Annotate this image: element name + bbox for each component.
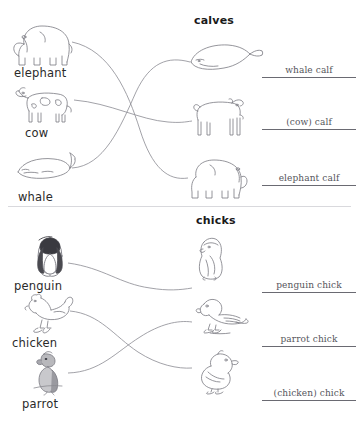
answer-rule — [262, 400, 356, 401]
answer-text-parrot-chick: parrot chick — [262, 334, 356, 344]
label-cow: cow — [25, 126, 48, 140]
whale-calf-icon — [186, 38, 264, 76]
label-elephant: elephant — [14, 66, 66, 80]
section-divider — [8, 206, 351, 207]
penguin-icon — [30, 230, 70, 278]
connector-whale-to-whale-calf — [72, 60, 190, 168]
answer-slot-chicken-chick[interactable]: (chicken) chick — [262, 379, 356, 401]
worksheet-page: calves elephant — [0, 0, 359, 423]
answer-text-penguin-chick: penguin chick — [262, 280, 356, 290]
answer-text-chicken-chick: (chicken) chick — [262, 388, 356, 398]
connector-elephant-to-elephant-calf — [72, 42, 188, 178]
parrot-chick-icon — [188, 292, 250, 336]
section-header-chicks: chicks — [196, 214, 236, 227]
chicken-icon — [18, 292, 76, 336]
answer-rule — [262, 77, 356, 78]
answer-rule — [262, 292, 356, 293]
elephant-calf-icon — [186, 155, 248, 201]
cow-icon — [12, 84, 74, 126]
penguin-chick-icon — [190, 232, 232, 282]
answer-rule — [262, 346, 356, 347]
answer-text-cow-calf: (cow) calf — [262, 117, 356, 127]
label-parrot: parrot — [22, 397, 58, 411]
cow-calf-icon — [190, 95, 248, 141]
answer-slot-parrot-chick[interactable]: parrot chick — [262, 325, 356, 347]
answer-slot-elephant-calf[interactable]: elephant calf — [262, 164, 356, 186]
parrot-icon — [26, 348, 72, 396]
answer-text-elephant-calf: elephant calf — [262, 173, 356, 183]
answer-slot-cow-calf[interactable]: (cow) calf — [262, 108, 356, 130]
answer-text-whale-calf: whale calf — [262, 65, 356, 75]
chicken-chick-icon — [192, 348, 244, 394]
section-header-calves: calves — [194, 14, 234, 27]
connector-cow-to-cow-calf — [74, 100, 192, 122]
label-whale: whale — [18, 190, 53, 204]
connector-chicken-to-chicken-chick — [70, 311, 192, 368]
elephant-icon — [10, 22, 76, 68]
answer-slot-penguin-chick[interactable]: penguin chick — [262, 271, 356, 293]
answer-rule — [262, 129, 356, 130]
answer-rule — [262, 185, 356, 186]
answer-slot-whale-calf[interactable]: whale calf — [262, 56, 356, 78]
label-penguin: penguin — [14, 279, 62, 293]
connector-parrot-to-parrot-chick — [68, 322, 192, 373]
whale-icon — [12, 148, 80, 184]
connector-penguin-to-penguin-chick — [68, 263, 192, 290]
